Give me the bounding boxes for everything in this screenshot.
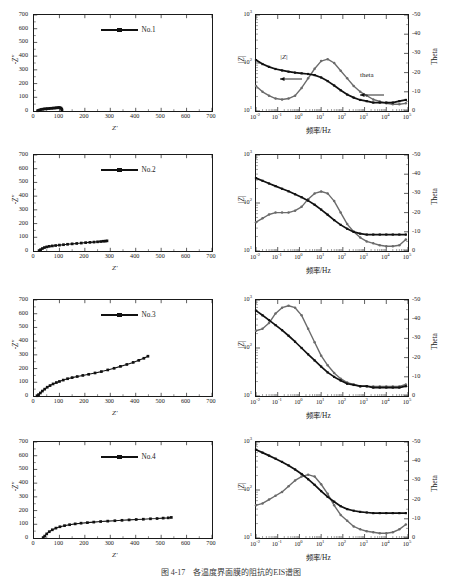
legend-no3: No.3	[101, 311, 156, 319]
legend-line-no4	[101, 456, 117, 457]
bode-data-no1	[255, 58, 407, 106]
bode-xtick: 100	[294, 113, 302, 120]
legend-line2-no2	[122, 169, 138, 170]
annotation-arrow	[280, 77, 285, 81]
nyquist-xtick: 700	[206, 113, 215, 119]
bode-svg-no1	[256, 15, 408, 111]
bode-ylabel-right-no3: Theta	[430, 322, 439, 362]
bode-data-no3	[255, 305, 407, 389]
legend-line-no2	[101, 169, 117, 170]
bode-ytick-right: -50	[412, 296, 420, 302]
bode-ytick-right: -50	[412, 11, 420, 17]
nyquist-ytick: 700	[2, 151, 28, 157]
bode-xtick: 10-2	[250, 253, 260, 260]
bode-ylabel-right-no1: Theta	[430, 37, 439, 77]
nyquist-ytick: 200	[2, 219, 28, 225]
nyquist-xtick: 500	[156, 540, 165, 546]
bode-xtick: 104	[381, 540, 389, 547]
nyquist-ytick: 700	[2, 296, 28, 302]
bode-panel-no1: |Z| Theta 频率/Hz |Z| theta 10-210-1100101…	[231, 0, 462, 145]
nyquist-xtick: 200	[79, 253, 88, 259]
bode-ytick-right: -40	[412, 170, 420, 176]
bode-ytick-right: -20	[412, 68, 420, 74]
nyquist-xtick: 300	[105, 398, 114, 404]
bode-data-no4	[255, 449, 407, 535]
bode-ytick-left: 102	[230, 198, 252, 205]
nyquist-ytick: 100	[2, 378, 28, 384]
bode-ytick-right: -20	[412, 353, 420, 359]
nyquist-xtick: 0	[31, 113, 34, 119]
bode-ytick-left: 101	[230, 246, 252, 253]
bode-ytick-right: -40	[412, 30, 420, 36]
nyquist-ytick: 0	[2, 392, 28, 398]
nyquist-ytick: 700	[2, 11, 28, 17]
nyquist-xtick: 400	[130, 253, 139, 259]
bode-xtick: 102	[338, 540, 346, 547]
nyquist-xtick: 600	[181, 253, 190, 259]
bode-ytick-right: 0	[412, 392, 415, 398]
bode-ytick-left: 101	[230, 533, 252, 540]
nyquist-xtick: 100	[54, 398, 63, 404]
figure-caption: 图 4-17 各温度界面膜的阻抗的EIS­­­谱图	[0, 566, 462, 577]
bode-ticks-no1	[256, 15, 408, 111]
nyquist-xtick: 100	[54, 113, 63, 119]
nyquist-ytick: 300	[2, 351, 28, 357]
bode-xtick: 104	[381, 398, 389, 405]
bode-ytick-right: -40	[412, 457, 420, 463]
nyquist-ytick: 300	[2, 66, 28, 72]
legend-no1: No.1	[101, 26, 156, 34]
nyquist-xtick: 100	[54, 253, 63, 259]
legend-label-no2: No.2	[142, 166, 156, 174]
bode-ytick-right: -50	[412, 438, 420, 444]
nyquist-ytick: 200	[2, 79, 28, 85]
bode-ytick-left: 103	[230, 295, 252, 302]
nyquist-ytick: 400	[2, 52, 28, 58]
bode-xtick: 104	[381, 113, 389, 120]
nyquist-data-no4	[42, 516, 173, 539]
bode-xtick: 105	[403, 113, 411, 120]
nyquist-xtick: 100	[54, 540, 63, 546]
nyquist-ytick: 100	[2, 520, 28, 526]
bode-xtick: 103	[359, 113, 367, 120]
bode-ytick-left: 101	[230, 391, 252, 398]
bode-xtick: 10-1	[272, 113, 282, 120]
bode-ytick-right: -10	[412, 515, 420, 521]
nyquist-panel-no4: -Z" Z' No.4 0100200300400500600700010020…	[0, 427, 231, 572]
nyquist-ytick: 100	[2, 233, 28, 239]
legend-no4: No.4	[101, 453, 156, 461]
bode-ticks-no2	[256, 155, 408, 251]
bode-svg-no4	[256, 442, 408, 538]
bode-plot-area-no2	[255, 154, 409, 252]
bode-ytick-left: 101	[230, 106, 252, 113]
nyquist-xtick: 300	[105, 113, 114, 119]
legend-line-no1	[101, 29, 117, 30]
nyquist-xtick: 400	[130, 540, 139, 546]
bode-ytick-right: -30	[412, 334, 420, 340]
legend-line-no3	[101, 314, 117, 315]
bode-xtick: 10-1	[272, 253, 282, 260]
nyquist-ytick: 600	[2, 452, 28, 458]
nyquist-xtick: 500	[156, 398, 165, 404]
figure-row-no4: -Z" Z' No.4 0100200300400500600700010020…	[0, 427, 462, 572]
nyquist-ytick: 0	[2, 247, 28, 253]
bode-xtick: 102	[338, 113, 346, 120]
nyquist-panel-no1: -Z" Z' No.1 0100200300400500600700010020…	[0, 0, 231, 145]
bode-ytick-left: 103	[230, 150, 252, 157]
bode-xlabel-no3: 频率/Hz	[306, 409, 331, 420]
legend-label-no4: No.4	[142, 453, 156, 461]
nyquist-ytick: 500	[2, 38, 28, 44]
bode-ytick-right: -20	[412, 208, 420, 214]
bode-panel-no2: |Z| Theta 频率/Hz 10-210-11001011021031041…	[231, 140, 462, 285]
bode-ytick-right: 0	[412, 247, 415, 253]
nyquist-xtick: 200	[79, 398, 88, 404]
bode-ytick-left: 103	[230, 437, 252, 444]
bode-xtick: 105	[403, 398, 411, 405]
nyquist-xlabel-no3: Z'	[112, 409, 117, 417]
bode-ytick-left: 102	[230, 58, 252, 65]
nyquist-xlabel-no1: Z'	[112, 124, 117, 132]
bode-ytick-right: -40	[412, 315, 420, 321]
bode-xtick: 10-1	[272, 398, 282, 405]
nyquist-ytick: 0	[2, 107, 28, 113]
bode-plot-area-no4	[255, 441, 409, 539]
nyquist-ytick: 400	[2, 479, 28, 485]
